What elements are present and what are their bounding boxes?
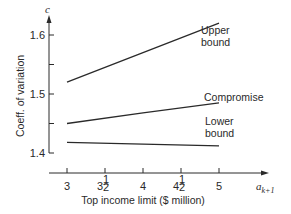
y-axis: c 1.41.51.6 bbox=[30, 3, 54, 159]
series-line-compromise bbox=[67, 103, 219, 124]
svg-text:2: 2 bbox=[103, 181, 109, 193]
series-group: UpperboundCompromiseLowerbound bbox=[67, 23, 264, 146]
series-label-lower-bound: bound bbox=[205, 127, 234, 139]
series-label-upper-bound: bound bbox=[201, 36, 230, 48]
line-chart: c 1.41.51.6 Coeff. of variation 33124412… bbox=[0, 0, 291, 214]
y-tick-label: 1.5 bbox=[30, 88, 45, 100]
series-line-upper-bound bbox=[67, 23, 219, 82]
y-tick-label: 1.6 bbox=[30, 29, 45, 41]
series-label-lower-bound: Lower bbox=[205, 115, 234, 127]
y-axis-title: Coeff. of variation bbox=[14, 55, 26, 137]
x-tick-label: 312 bbox=[97, 173, 109, 193]
y-ticks: 1.41.51.6 bbox=[30, 29, 54, 159]
x-tick-label: 412 bbox=[173, 173, 185, 193]
svg-text:3: 3 bbox=[64, 180, 70, 192]
series-label-compromise: Compromise bbox=[204, 91, 264, 103]
x-tick-label: 3 bbox=[64, 180, 70, 192]
x-tick-label: 4 bbox=[140, 180, 146, 192]
y-tick-label: 1.4 bbox=[30, 147, 45, 159]
x-axis-symbol: ak+1 bbox=[256, 180, 274, 195]
svg-text:5: 5 bbox=[216, 180, 222, 192]
svg-text:4: 4 bbox=[140, 180, 146, 192]
y-axis-symbol: c bbox=[45, 3, 50, 15]
x-tick-label: 5 bbox=[216, 180, 222, 192]
x-axis-arrow-icon bbox=[261, 171, 269, 176]
svg-text:2: 2 bbox=[179, 181, 185, 193]
y-axis-arrow-icon bbox=[47, 15, 52, 23]
x-axis-title: Top income limit ($ million) bbox=[81, 194, 205, 206]
x-ticks: 331244125 bbox=[64, 168, 222, 193]
x-axis: 331244125 ak+1 bbox=[49, 168, 274, 195]
series-label-upper-bound: Upper bbox=[201, 24, 230, 36]
series-line-lower-bound bbox=[67, 142, 219, 146]
